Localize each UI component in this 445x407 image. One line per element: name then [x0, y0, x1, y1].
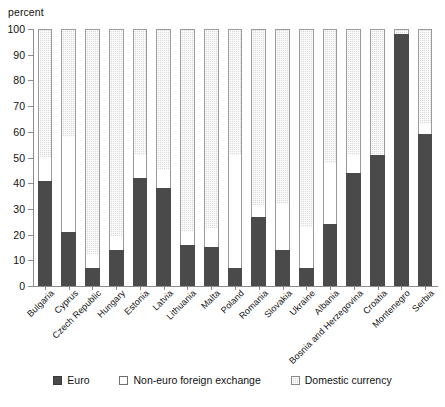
segment-domestic-currency: [346, 29, 361, 155]
y-axis-tick-label: 70: [13, 100, 25, 112]
segment-euro: [61, 232, 76, 286]
bar-czech-republic[interactable]: [85, 29, 100, 286]
legend-item-non-euro-foreign-exchange[interactable]: Non-euro foreign exchange: [119, 374, 260, 386]
segment-non-euro-foreign-exchange: [323, 163, 338, 225]
segment-domestic-currency: [204, 29, 219, 229]
x-axis-label-bulgaria: Bulgaria: [25, 288, 56, 319]
segment-non-euro-foreign-exchange: [299, 227, 314, 268]
segment-euro: [180, 245, 195, 286]
chart-legend: EuroNon-euro foreign exchangeDomestic cu…: [0, 374, 445, 386]
segment-non-euro-foreign-exchange: [418, 124, 433, 134]
bar-poland[interactable]: [228, 29, 243, 286]
segment-euro: [228, 268, 243, 286]
segment-euro: [394, 34, 409, 286]
bar-serbia[interactable]: [418, 29, 433, 286]
bar-bosnia-and-herzegovina[interactable]: [346, 29, 361, 286]
segment-euro: [275, 250, 290, 286]
segment-domestic-currency: [180, 29, 195, 232]
segment-domestic-currency: [228, 29, 243, 155]
segment-euro: [204, 247, 219, 286]
bar-estonia[interactable]: [133, 29, 148, 286]
segment-euro: [109, 250, 124, 286]
segment-domestic-currency: [109, 29, 124, 237]
segment-euro: [418, 134, 433, 286]
segment-non-euro-foreign-exchange: [61, 137, 76, 232]
y-axis-tick-label: 100: [7, 23, 25, 35]
bar-croatia[interactable]: [370, 29, 385, 286]
segment-non-euro-foreign-exchange: [180, 232, 195, 245]
bar-bulgaria[interactable]: [38, 29, 53, 286]
bar-albania[interactable]: [323, 29, 338, 286]
y-axis-tick-label: 30: [13, 203, 25, 215]
bar-lithuania[interactable]: [180, 29, 195, 286]
segment-non-euro-foreign-exchange: [156, 170, 171, 188]
segment-euro: [38, 181, 53, 286]
segment-domestic-currency: [156, 29, 171, 170]
y-axis-tick-label: 0: [19, 280, 25, 292]
segment-euro: [370, 155, 385, 286]
y-axis-tick-label: 40: [13, 177, 25, 189]
empty-square-icon: [119, 376, 128, 385]
hatched-square-icon: [291, 376, 300, 385]
x-axis-labels: BulgariaCyprusCzech RepublicHungaryEston…: [33, 288, 437, 360]
stacked-bar-chart: percent 0102030405060708090100 BulgariaC…: [0, 0, 445, 407]
y-axis-tick-label: 50: [13, 152, 25, 164]
bar-latvia[interactable]: [156, 29, 171, 286]
segment-non-euro-foreign-exchange: [85, 255, 100, 268]
bar-slovakia[interactable]: [275, 29, 290, 286]
segment-non-euro-foreign-exchange: [251, 206, 266, 216]
segment-domestic-currency: [418, 29, 433, 124]
legend-item-euro[interactable]: Euro: [53, 374, 89, 386]
bar-cyprus[interactable]: [61, 29, 76, 286]
segment-domestic-currency: [275, 29, 290, 204]
legend-item-domestic-currency[interactable]: Domestic currency: [291, 374, 392, 386]
bar-ukraine[interactable]: [299, 29, 314, 286]
segment-euro: [346, 173, 361, 286]
segment-non-euro-foreign-exchange: [133, 155, 148, 178]
segment-domestic-currency: [133, 29, 148, 155]
segment-non-euro-foreign-exchange: [204, 229, 219, 247]
segment-non-euro-foreign-exchange: [109, 237, 124, 250]
x-axis-label-serbia: Serbia: [410, 288, 436, 314]
bar-hungary[interactable]: [109, 29, 124, 286]
segment-euro: [156, 188, 171, 286]
segment-euro: [299, 268, 314, 286]
y-axis-tick-label: 80: [13, 74, 25, 86]
plot-area: 0102030405060708090100: [33, 29, 437, 286]
segment-domestic-currency: [85, 29, 100, 255]
bar-malta[interactable]: [204, 29, 219, 286]
legend-label: Domestic currency: [305, 374, 392, 386]
segment-domestic-currency: [299, 29, 314, 227]
y-axis-tick-label: 90: [13, 49, 25, 61]
legend-label: Euro: [67, 374, 89, 386]
plot-inner: 0102030405060708090100: [33, 29, 437, 286]
segment-non-euro-foreign-exchange: [228, 155, 243, 268]
segment-domestic-currency: [323, 29, 338, 163]
segment-euro: [251, 217, 266, 286]
segment-euro: [85, 268, 100, 286]
segment-domestic-currency: [370, 29, 385, 155]
segment-non-euro-foreign-exchange: [275, 204, 290, 250]
segment-euro: [133, 178, 148, 286]
segment-euro: [323, 224, 338, 286]
filled-dark-square-icon: [53, 376, 62, 385]
y-axis-tick-label: 10: [13, 254, 25, 266]
segment-domestic-currency: [38, 29, 53, 158]
y-axis-title: percent: [8, 6, 44, 18]
segment-non-euro-foreign-exchange: [38, 158, 53, 181]
segment-domestic-currency: [251, 29, 266, 206]
y-axis-tick-label: 60: [13, 126, 25, 138]
segment-domestic-currency: [61, 29, 76, 137]
segment-non-euro-foreign-exchange: [346, 155, 361, 173]
bar-romania[interactable]: [251, 29, 266, 286]
bar-montenegro[interactable]: [394, 29, 409, 286]
x-axis-label-estonia: Estonia: [122, 288, 151, 317]
legend-label: Non-euro foreign exchange: [133, 374, 260, 386]
y-axis-tick-label: 20: [13, 229, 25, 241]
